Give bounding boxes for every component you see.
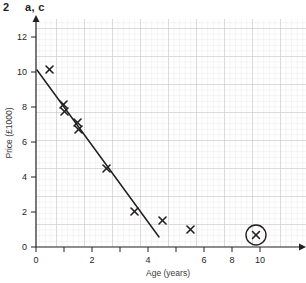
x-tick-label: 6 bbox=[201, 255, 206, 265]
figure-container: 2 a, c bbox=[0, 0, 306, 283]
x-tick-label: 8 bbox=[229, 255, 234, 265]
y-axis-ticks bbox=[31, 37, 36, 247]
x-tick-label: 4 bbox=[145, 255, 150, 265]
x-axis-tick-labels: 0 2 4 6 8 10 bbox=[33, 255, 265, 265]
y-tick-label: 2 bbox=[22, 207, 27, 217]
y-tick-label: 8 bbox=[22, 102, 27, 112]
y-tick-label: 0 bbox=[22, 242, 27, 252]
x-tick-label: 10 bbox=[255, 255, 265, 265]
y-axis-tick-labels: 0 2 4 6 8 10 12 bbox=[17, 32, 27, 252]
scatter-plot: 0 2 4 6 8 10 0 2 4 6 8 10 12 Age (year bbox=[0, 0, 306, 283]
x-axis-ticks bbox=[36, 247, 260, 252]
y-tick-label: 12 bbox=[17, 32, 27, 42]
y-tick-label: 10 bbox=[17, 67, 27, 77]
y-tick-label: 4 bbox=[22, 172, 27, 182]
y-tick-label: 6 bbox=[22, 137, 27, 147]
x-tick-label: 2 bbox=[89, 255, 94, 265]
x-tick-label: 0 bbox=[33, 255, 38, 265]
x-axis-label: Age (years) bbox=[146, 268, 190, 278]
y-axis-label: Price (£1000) bbox=[4, 107, 14, 158]
grid-background bbox=[36, 19, 306, 247]
